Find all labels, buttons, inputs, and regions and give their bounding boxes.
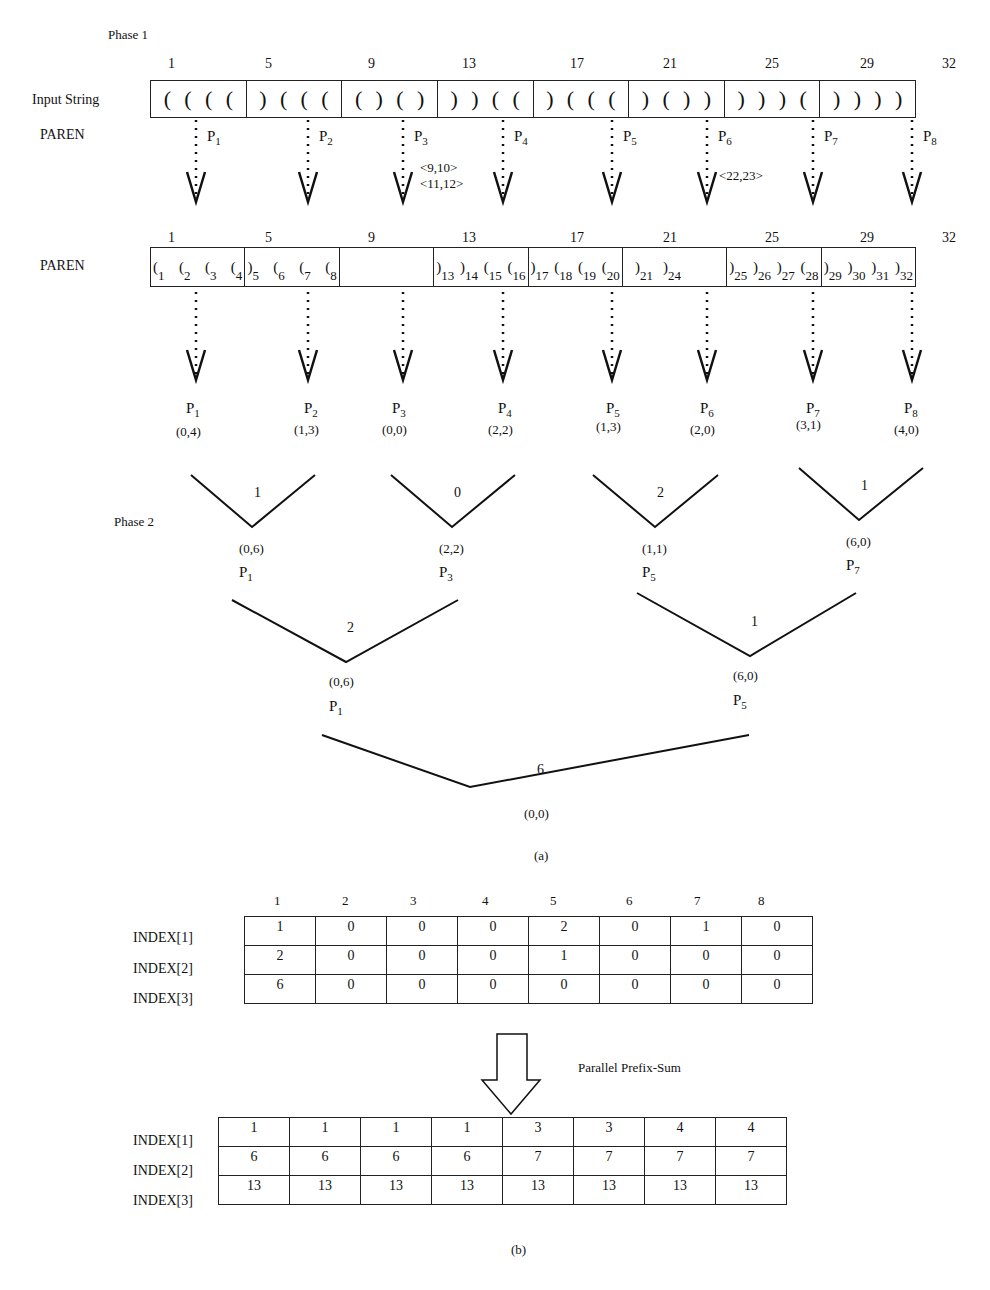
column-header: 6 xyxy=(626,893,633,909)
processor-index: 7 xyxy=(854,564,860,576)
match-count: 1 xyxy=(254,485,261,501)
leaf-processor: P6 xyxy=(700,400,714,419)
match-count: 2 xyxy=(347,620,354,636)
root-match-count: 6 xyxy=(537,762,544,778)
table-cell: 2 xyxy=(245,946,316,975)
table-cell: 0 xyxy=(387,975,458,1004)
processor-index: 1 xyxy=(337,705,343,717)
column-header: 2 xyxy=(342,893,349,909)
table-cell: 13 xyxy=(432,1176,503,1205)
leaf-processor: P3 xyxy=(392,400,406,419)
root-pair: (0,0) xyxy=(524,806,549,822)
table-cell: 6 xyxy=(290,1147,361,1176)
column-header: 3 xyxy=(410,893,417,909)
table-row: 11113344 xyxy=(219,1118,787,1147)
row-label: INDEX[1] xyxy=(133,1133,193,1149)
table-cell: 1 xyxy=(245,917,316,946)
row-label: INDEX[3] xyxy=(133,1193,193,1209)
table-cell: 13 xyxy=(645,1176,716,1205)
merged-processor: P5 xyxy=(733,692,747,711)
table-cell: 1 xyxy=(361,1118,432,1147)
merge-edge xyxy=(799,468,923,520)
merge-edge xyxy=(232,600,458,662)
table-row: 20001000 xyxy=(245,946,813,975)
table-cell: 13 xyxy=(219,1176,290,1205)
caption-a: (a) xyxy=(534,848,548,864)
processor-index: 3 xyxy=(447,571,453,583)
column-header: 4 xyxy=(482,893,489,909)
merged-pair: (2,2) xyxy=(439,541,464,557)
table-cell: 0 xyxy=(458,917,529,946)
processor-index: 5 xyxy=(614,407,620,419)
row-label: INDEX[2] xyxy=(133,961,193,977)
table-cell: 0 xyxy=(458,975,529,1004)
processor-index: 1 xyxy=(194,407,200,419)
column-header: 1 xyxy=(274,893,281,909)
column-header: 7 xyxy=(694,893,701,909)
table-cell: 1 xyxy=(219,1118,290,1147)
table-cell: 7 xyxy=(503,1147,574,1176)
caption-b: (b) xyxy=(511,1242,526,1258)
table-row: 1313131313131313 xyxy=(219,1176,787,1205)
table-cell: 1 xyxy=(432,1118,503,1147)
table-cell: 0 xyxy=(600,946,671,975)
table-cell: 13 xyxy=(361,1176,432,1205)
leaf-pair: (0,4) xyxy=(176,424,201,440)
match-count: 1 xyxy=(751,614,758,630)
leaf-pair: (2,2) xyxy=(488,422,513,438)
table-cell: 3 xyxy=(503,1118,574,1147)
table-row: 10002010 xyxy=(245,917,813,946)
table-cell: 13 xyxy=(503,1176,574,1205)
leaf-pair: (1,3) xyxy=(596,419,621,435)
leaf-processor: P5 xyxy=(606,400,620,419)
merged-processor: P3 xyxy=(439,564,453,583)
leaf-processor: P4 xyxy=(498,400,512,419)
table-cell: 2 xyxy=(529,917,600,946)
table-cell: 1 xyxy=(529,946,600,975)
merged-pair: (0,6) xyxy=(329,674,354,690)
table-cell: 0 xyxy=(387,917,458,946)
processor-index: 3 xyxy=(400,407,406,419)
diagram-lines xyxy=(0,0,990,1290)
merge-edge xyxy=(593,475,718,527)
merged-processor: P1 xyxy=(329,698,343,717)
processor-index: 1 xyxy=(247,571,253,583)
processor-index: 2 xyxy=(312,407,318,419)
table-cell: 0 xyxy=(387,946,458,975)
match-count: 0 xyxy=(454,485,461,501)
table-cell: 0 xyxy=(600,975,671,1004)
leaf-processor: P8 xyxy=(904,400,918,419)
leaf-pair: (3,1) xyxy=(796,417,821,433)
table-cell: 0 xyxy=(529,975,600,1004)
merge-edge xyxy=(191,475,315,527)
table-cell: 0 xyxy=(742,946,813,975)
row-label: INDEX[1] xyxy=(133,930,193,946)
prefix-sum-arrow-icon xyxy=(482,1034,540,1114)
leaf-pair: (0,0) xyxy=(382,422,407,438)
merged-pair: (6,0) xyxy=(846,534,871,550)
leaf-pair: (4,0) xyxy=(894,422,919,438)
table-cell: 0 xyxy=(316,946,387,975)
processor-index: 5 xyxy=(741,699,747,711)
table-cell: 0 xyxy=(458,946,529,975)
merge-edge xyxy=(391,475,515,527)
match-count: 1 xyxy=(861,478,868,494)
table-cell: 0 xyxy=(600,917,671,946)
table-cell: 13 xyxy=(574,1176,645,1205)
table-cell: 4 xyxy=(645,1118,716,1147)
table-row: 60000000 xyxy=(245,975,813,1004)
table-cell: 13 xyxy=(716,1176,787,1205)
index-table: 100020102000100060000000 xyxy=(244,916,813,1004)
table-cell: 0 xyxy=(671,975,742,1004)
index-table: 11113344666677771313131313131313 xyxy=(218,1117,787,1205)
table-cell: 0 xyxy=(316,975,387,1004)
table-cell: 13 xyxy=(290,1176,361,1205)
table-cell: 6 xyxy=(361,1147,432,1176)
row-label: INDEX[2] xyxy=(133,1163,193,1179)
leaf-pair: (1,3) xyxy=(294,422,319,438)
transform-label: Parallel Prefix-Sum xyxy=(578,1060,681,1076)
table-cell: 1 xyxy=(671,917,742,946)
merged-pair: (0,6) xyxy=(239,541,264,557)
match-count: 2 xyxy=(657,485,664,501)
table-cell: 6 xyxy=(245,975,316,1004)
